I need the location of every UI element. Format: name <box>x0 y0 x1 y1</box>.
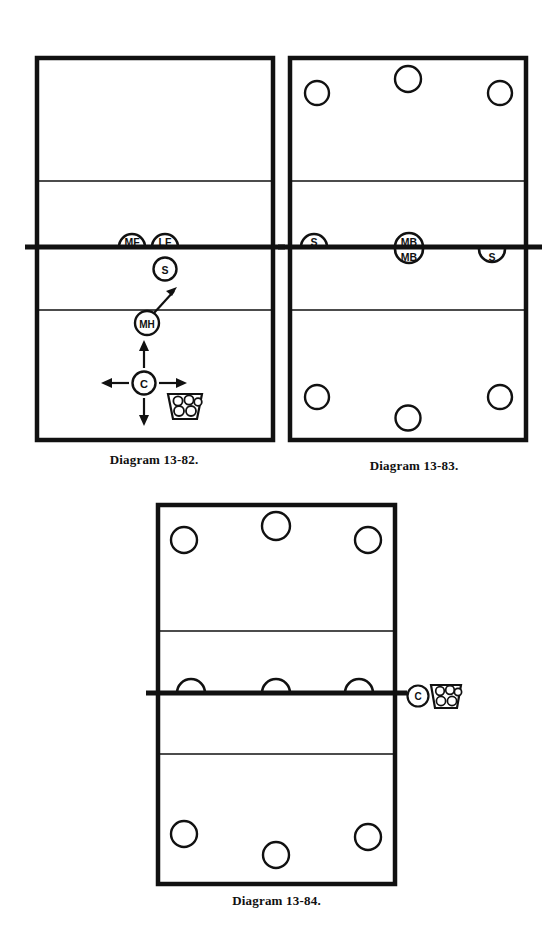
marker-middle-blocker-near: MB <box>395 249 423 263</box>
marker-ball-cart <box>431 685 462 708</box>
marker-setter-near: S <box>479 249 505 263</box>
marker-label: MF <box>124 236 140 248</box>
cart-ball <box>174 406 184 416</box>
caption-13-82: Diagram 13-82. <box>36 452 272 468</box>
marker-label: S <box>310 236 317 248</box>
marker-label: MH <box>139 319 155 330</box>
court-13-83: S MB MB S <box>272 46 556 456</box>
marker-label: LF <box>159 236 172 248</box>
marker-player-near-back-left <box>305 385 329 409</box>
figure-13-83: S MB MB S <box>272 46 556 456</box>
coach-arrow-down-head <box>139 415 149 426</box>
cart-ball <box>447 696 456 705</box>
cart-ball <box>436 687 445 696</box>
cart-ball <box>184 395 193 404</box>
coach-arrow-left-head <box>101 378 112 388</box>
marker-coach: C <box>408 686 429 707</box>
marker-label: MB <box>401 236 418 248</box>
coach-arrow-right-head <box>176 378 187 388</box>
cart-ball <box>173 396 182 405</box>
marker-label: C <box>140 378 148 390</box>
marker-player-near-back-left <box>171 821 197 847</box>
marker-middle-hitter: MH <box>135 287 177 335</box>
court-13-84: C <box>134 493 474 893</box>
court-13-82: MF LF S MH <box>12 46 302 446</box>
marker-ball-cart <box>168 394 202 419</box>
marker-player-near-back-right <box>355 824 381 850</box>
marker-player-far-back-center <box>395 66 421 92</box>
marker-player-far-back-left <box>305 81 329 105</box>
marker-player-far-back-right <box>488 81 512 105</box>
cart-ball <box>446 686 455 695</box>
caption-13-84: Diagram 13-84. <box>158 893 395 909</box>
cart-ball <box>194 398 202 406</box>
marker-label: C <box>414 691 421 702</box>
caption-13-83: Diagram 13-83. <box>296 458 532 474</box>
marker-player-near-back-center <box>396 406 421 431</box>
marker-player-far-back-center <box>262 512 290 540</box>
movement-arrow-head <box>166 287 177 296</box>
marker-label: S <box>161 264 168 276</box>
marker-player-near-back-right <box>488 385 512 409</box>
figure-13-84: C <box>134 493 474 893</box>
diagram-page: MF LF S MH <box>0 0 556 926</box>
figure-13-82: MF LF S MH <box>12 46 302 446</box>
cart-ball <box>436 696 445 705</box>
marker-setter: S <box>154 258 177 281</box>
marker-label: S <box>488 251 495 263</box>
marker-player-far-back-left <box>171 527 197 553</box>
coach-arrow-up-head <box>139 340 149 351</box>
marker-player-near-back-center <box>263 842 289 868</box>
marker-player-far-back-right <box>355 527 381 553</box>
cart-ball <box>454 688 461 695</box>
marker-label: MB <box>401 251 418 263</box>
cart-ball <box>186 406 196 416</box>
